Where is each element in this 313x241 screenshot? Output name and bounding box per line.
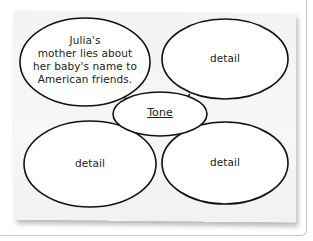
node-top-right-label: detail [185, 52, 265, 65]
text-line: Julia's [25, 34, 145, 47]
text-line: American friends. [25, 73, 145, 86]
node-top-left-text: Julia's mother lies about her baby's nam… [25, 34, 145, 86]
node-bottom-right-label: detail [185, 156, 265, 169]
text-line: mother lies about [25, 47, 145, 60]
text-line: her baby's name to [25, 60, 145, 73]
node-bottom-left-label: detail [50, 157, 130, 170]
center-tone-label: Tone [120, 106, 200, 119]
